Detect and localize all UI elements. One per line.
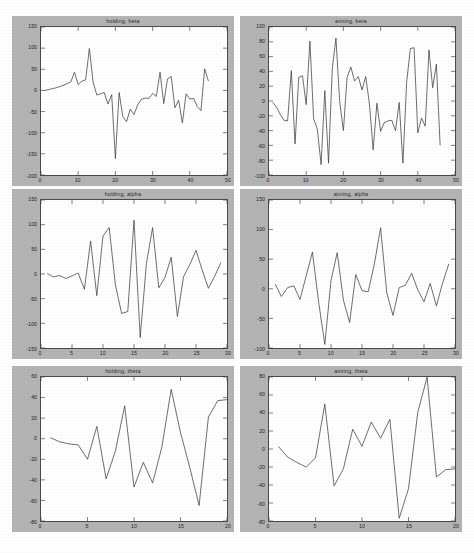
y-tick-label: 150 <box>240 196 265 202</box>
x-tick-label: 40 <box>181 177 199 183</box>
y-tick-label: 150 <box>12 23 37 29</box>
x-tick-label: 10 <box>125 523 143 529</box>
panel-holding-alpha: holding, alpha -150-100-5005010015005101… <box>12 189 234 359</box>
plot-line-aiming-theta <box>269 377 455 521</box>
x-tick-label: 15 <box>400 523 418 529</box>
y-tick-label: 60 <box>12 373 37 379</box>
y-tick-label: -60 <box>240 501 265 507</box>
x-tick-label: 30 <box>447 350 465 356</box>
x-tick-label: 50 <box>447 177 465 183</box>
x-tick-label: 20 <box>334 177 352 183</box>
x-tick-label: 10 <box>353 523 371 529</box>
plot-area-holding-alpha <box>40 199 228 349</box>
x-tick-label: 10 <box>69 177 87 183</box>
x-tick-label: 5 <box>306 523 324 529</box>
x-tick-label: 20 <box>219 523 237 529</box>
x-tick-label: 20 <box>156 350 174 356</box>
x-tick-label: 15 <box>172 523 190 529</box>
x-tick-label: 5 <box>62 350 80 356</box>
x-tick-label: 5 <box>290 350 308 356</box>
y-tick-label: -40 <box>12 477 37 483</box>
panel-title-holding-theta: holding, theta <box>12 368 234 374</box>
x-tick-label: 0 <box>31 177 49 183</box>
plot-area-holding-theta <box>40 376 228 522</box>
plot-area-holding-beta <box>40 26 228 176</box>
x-tick-label: 0 <box>31 350 49 356</box>
y-tick-label: 100 <box>240 23 265 29</box>
x-tick-label: 5 <box>78 523 96 529</box>
panel-aiming-alpha: aiming, alpha -100-500501001500510152025… <box>240 189 462 359</box>
x-tick-label: 30 <box>372 177 390 183</box>
y-tick-label: -150 <box>12 151 37 157</box>
x-tick-label: 30 <box>219 350 237 356</box>
plot-area-aiming-theta <box>268 376 456 522</box>
y-tick-label: 100 <box>12 221 37 227</box>
x-tick-label: 25 <box>188 350 206 356</box>
plot-line-holding-alpha <box>41 200 227 348</box>
y-tick-label: -20 <box>12 456 37 462</box>
panel-holding-theta: holding, theta -80-60-40-200204060051015… <box>12 366 234 532</box>
y-tick-label: -60 <box>12 498 37 504</box>
panel-title-aiming-beta: aiming, beta <box>240 18 462 24</box>
plot-line-holding-theta <box>41 377 227 521</box>
y-tick-label: -20 <box>240 113 265 119</box>
y-tick-label: 50 <box>12 246 37 252</box>
y-tick-label: 40 <box>240 68 265 74</box>
y-tick-label: 20 <box>240 428 265 434</box>
y-tick-label: 60 <box>240 391 265 397</box>
x-tick-label: 20 <box>106 177 124 183</box>
panel-title-holding-alpha: holding, alpha <box>12 191 234 197</box>
y-tick-label: -50 <box>240 316 265 322</box>
y-tick-label: 0 <box>240 446 265 452</box>
y-tick-label: -80 <box>240 158 265 164</box>
figure-canvas: holding, beta -200-150-100-5005010015001… <box>0 0 474 553</box>
x-tick-label: 15 <box>125 350 143 356</box>
x-tick-label: 50 <box>219 177 237 183</box>
y-tick-label: 100 <box>12 44 37 50</box>
y-tick-label: 40 <box>12 394 37 400</box>
panel-title-aiming-theta: aiming, theta <box>240 368 462 374</box>
y-tick-label: -100 <box>12 130 37 136</box>
y-tick-label: 40 <box>240 409 265 415</box>
panel-aiming-theta: aiming, theta -80-60-40-2002040608005101… <box>240 366 462 532</box>
plot-area-aiming-alpha <box>268 199 456 349</box>
x-tick-label: 25 <box>416 350 434 356</box>
y-tick-label: 150 <box>12 196 37 202</box>
y-tick-label: 80 <box>240 38 265 44</box>
y-tick-label: 0 <box>12 87 37 93</box>
plot-area-aiming-beta <box>268 26 456 176</box>
plot-line-holding-beta <box>41 27 227 175</box>
x-tick-label: 0 <box>31 523 49 529</box>
y-tick-label: 100 <box>240 226 265 232</box>
x-tick-label: 0 <box>259 523 277 529</box>
plot-line-aiming-beta <box>269 27 455 175</box>
y-tick-label: -40 <box>240 482 265 488</box>
y-tick-label: 0 <box>12 435 37 441</box>
x-tick-label: 40 <box>409 177 427 183</box>
y-tick-label: 0 <box>240 98 265 104</box>
plot-line-aiming-alpha <box>269 200 455 348</box>
y-tick-label: 0 <box>12 271 37 277</box>
x-tick-label: 20 <box>447 523 465 529</box>
y-tick-label: -40 <box>240 128 265 134</box>
y-tick-label: -50 <box>12 109 37 115</box>
panel-title-holding-beta: holding, beta <box>12 18 234 24</box>
y-tick-label: 20 <box>240 83 265 89</box>
x-tick-label: 10 <box>297 177 315 183</box>
panel-title-aiming-alpha: aiming, alpha <box>240 191 462 197</box>
y-tick-label: -50 <box>12 296 37 302</box>
panel-aiming-beta: aiming, beta -100-80-60-40-2002040608010… <box>240 16 462 186</box>
x-tick-label: 10 <box>94 350 112 356</box>
y-tick-label: 80 <box>240 373 265 379</box>
y-tick-label: 60 <box>240 53 265 59</box>
panel-holding-beta: holding, beta -200-150-100-5005010015001… <box>12 16 234 186</box>
y-tick-label: -20 <box>240 464 265 470</box>
y-tick-label: 20 <box>12 415 37 421</box>
x-tick-label: 0 <box>259 177 277 183</box>
x-tick-label: 15 <box>353 350 371 356</box>
y-tick-label: 50 <box>12 66 37 72</box>
x-tick-label: 20 <box>384 350 402 356</box>
y-tick-label: 50 <box>240 256 265 262</box>
x-tick-label: 10 <box>322 350 340 356</box>
x-tick-label: 0 <box>259 350 277 356</box>
